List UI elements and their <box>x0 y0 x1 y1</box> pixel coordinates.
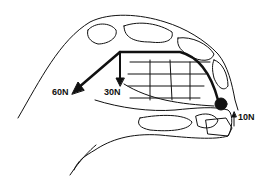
bone-3 <box>178 38 214 61</box>
arrow-30n-head <box>116 78 124 86</box>
bone-2 <box>124 23 172 42</box>
bone-5 <box>138 115 192 130</box>
contact-point <box>215 98 227 110</box>
wrist-line <box>70 145 96 175</box>
finger-curve <box>124 84 214 106</box>
hand-diagram <box>0 0 268 186</box>
force-label-30n: 30N <box>104 88 121 97</box>
bone-1 <box>87 24 116 44</box>
hand-outline <box>18 15 238 118</box>
bone-4 <box>213 60 229 89</box>
finger-lines <box>128 60 210 100</box>
tendon-line <box>120 52 218 100</box>
thumbnail <box>206 118 232 136</box>
arrow-10n-head <box>232 112 236 117</box>
arrow-60n <box>78 52 120 88</box>
hand-outline-lower <box>74 100 232 170</box>
force-label-60n: 60N <box>52 88 69 97</box>
force-label-10n: 10N <box>238 113 255 122</box>
